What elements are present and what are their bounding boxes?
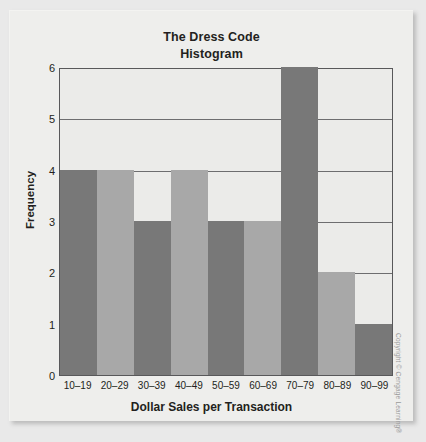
y-tick-label-0: 0 <box>39 371 55 382</box>
bar-80–89 <box>318 272 355 375</box>
bar-30–39 <box>134 221 171 375</box>
chart-title-line-1: The Dress Code <box>10 29 413 46</box>
figure-panel: The Dress Code Histogram Frequency 01234… <box>9 10 413 421</box>
x-tick-label-6: 70–79 <box>282 380 319 391</box>
x-axis-tick-labels: 10–1920–2930–3940–4950–5960–6970–7980–89… <box>59 380 393 391</box>
x-tick-label-4: 50–59 <box>207 380 244 391</box>
bar-10–19 <box>60 170 97 375</box>
bar-90–99 <box>355 324 392 375</box>
y-tick-label-3: 3 <box>39 217 55 228</box>
chart-title: The Dress Code Histogram <box>10 29 413 63</box>
bars-layer <box>60 69 392 375</box>
y-tick-label-4: 4 <box>39 166 55 177</box>
bar-60–69 <box>244 221 281 375</box>
y-axis-tick-labels: 0123456 <box>35 68 55 376</box>
y-tick-label-2: 2 <box>39 268 55 279</box>
plot-area <box>59 68 393 376</box>
x-tick-label-3: 40–49 <box>170 380 207 391</box>
x-tick-label-8: 90–99 <box>356 380 393 391</box>
copyright-note: Copyright © Cengage Learning® <box>395 333 402 442</box>
x-axis-title: Dollar Sales per Transaction <box>10 400 413 414</box>
y-tick-label-1: 1 <box>39 320 55 331</box>
bar-40–49 <box>171 170 208 375</box>
bar-70–79 <box>281 67 318 375</box>
y-tick-label-5: 5 <box>39 114 55 125</box>
x-tick-label-7: 80–89 <box>319 380 356 391</box>
x-tick-label-2: 30–39 <box>133 380 170 391</box>
figure-root: The Dress Code Histogram Frequency 01234… <box>0 0 426 442</box>
x-tick-label-0: 10–19 <box>59 380 96 391</box>
bar-20–29 <box>97 170 134 375</box>
chart-title-line-2: Histogram <box>10 46 413 63</box>
bar-50–59 <box>208 221 245 375</box>
x-tick-label-5: 60–69 <box>245 380 282 391</box>
y-tick-label-6: 6 <box>39 63 55 74</box>
x-tick-label-1: 20–29 <box>96 380 133 391</box>
